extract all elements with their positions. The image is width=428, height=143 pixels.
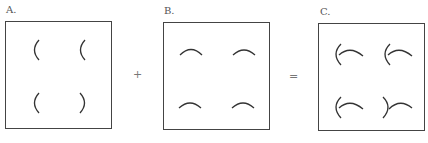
- up-arc-icon: [339, 50, 363, 56]
- right-arc-icon: [80, 93, 85, 113]
- up-arc-icon: [180, 50, 202, 56]
- up-arc-icon: [179, 103, 201, 108]
- panel-b: [164, 23, 270, 130]
- up-arc-icon: [388, 50, 412, 56]
- left-arc-icon: [81, 40, 86, 60]
- panel-c: [319, 24, 425, 131]
- left-arc-icon: [35, 93, 40, 113]
- up-arc-icon: [232, 103, 254, 108]
- right-arc-icon: [383, 97, 388, 118]
- diagram-canvas: [0, 0, 428, 143]
- left-arc-icon: [35, 40, 40, 60]
- up-arc-icon: [389, 103, 412, 109]
- up-arc-icon: [339, 103, 363, 109]
- panel-a: [6, 22, 112, 129]
- up-arc-icon: [233, 50, 255, 55]
